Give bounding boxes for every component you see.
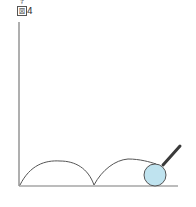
first-arch xyxy=(20,161,94,185)
stick-icon xyxy=(163,146,180,165)
ball-icon xyxy=(144,164,166,186)
trajectory-diagram xyxy=(0,0,196,207)
